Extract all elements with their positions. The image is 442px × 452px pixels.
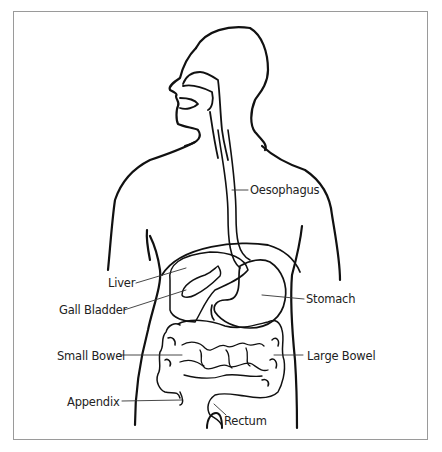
- label-stomach: Stomach: [306, 292, 355, 306]
- leader-lines: [120, 190, 304, 415]
- label-liver: Liver: [108, 276, 135, 290]
- gall-bladder: [182, 266, 221, 297]
- appendix-leader: [122, 400, 182, 401]
- oesophagus: [218, 130, 250, 268]
- liver: [170, 252, 248, 322]
- digestive-system-illustration: [0, 0, 442, 452]
- rectum: [207, 413, 222, 428]
- label-small-bowel: Small Bowel: [57, 349, 125, 363]
- small-bowel: [180, 342, 268, 378]
- label-gall-bladder: Gall Bladder: [59, 303, 127, 317]
- stomach-leader: [262, 295, 304, 299]
- gall-bladder-leader: [124, 290, 186, 310]
- label-large-bowel: Large Bowel: [307, 349, 375, 363]
- label-oesophagus: Oesophagus: [250, 183, 319, 197]
- label-appendix: Appendix: [67, 395, 120, 409]
- label-rectum: Rectum: [224, 414, 267, 428]
- body-outline: [108, 27, 340, 428]
